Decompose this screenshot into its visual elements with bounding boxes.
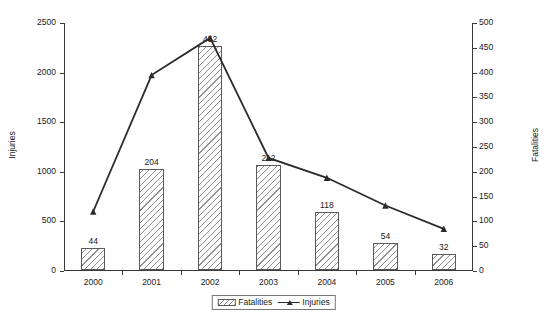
hatched-bar-icon <box>217 299 235 306</box>
y-right-tick-label: 500 <box>479 17 519 27</box>
x-axis-label: 2005 <box>355 277 415 287</box>
legend-label-fatalities: Fatalities <box>238 297 272 308</box>
chart-container: Injuries Fatalities 05001000150020002500… <box>0 0 547 323</box>
x-tick <box>356 271 357 275</box>
y-right-tick <box>473 48 477 49</box>
y-axis-right-title: Fatalities <box>530 110 540 180</box>
x-axis-label: 2001 <box>122 277 182 287</box>
y-right-tick-label: 0 <box>479 265 519 275</box>
y-left-tick-label: 500 <box>16 215 56 225</box>
line-series-injuries <box>64 23 473 271</box>
y-right-tick-label: 300 <box>479 116 519 126</box>
y-left-tick-label: 1500 <box>16 116 56 126</box>
y-right-tick-label: 50 <box>479 240 519 250</box>
y-left-tick-label: 1000 <box>16 166 56 176</box>
y-left-tick-label: 2500 <box>16 17 56 27</box>
x-axis-label: 2002 <box>180 277 240 287</box>
x-tick <box>415 271 416 275</box>
y-right-tick <box>473 172 477 173</box>
y-right-tick-label: 350 <box>479 91 519 101</box>
y-right-tick <box>473 122 477 123</box>
x-tick <box>122 271 123 275</box>
x-axis-label: 2003 <box>239 277 299 287</box>
chart-legend: Fatalities Injuries <box>211 295 335 310</box>
y-right-tick-label: 150 <box>479 191 519 201</box>
legend-label-injuries: Injuries <box>302 297 329 308</box>
y-right-tick-label: 450 <box>479 42 519 52</box>
y-left-tick-label: 2000 <box>16 67 56 77</box>
y-right-tick <box>473 221 477 222</box>
y-right-tick <box>473 197 477 198</box>
x-axis-label: 2000 <box>63 277 123 287</box>
y-right-tick-label: 200 <box>479 166 519 176</box>
line-marker-icon <box>277 299 299 307</box>
y-right-tick-label: 100 <box>479 215 519 225</box>
y-right-tick <box>473 23 477 24</box>
y-right-tick-label: 400 <box>479 67 519 77</box>
x-tick <box>239 271 240 275</box>
legend-item-injuries: Injuries <box>277 297 329 308</box>
y-left-tick <box>60 271 64 272</box>
y-right-tick <box>473 147 477 148</box>
injuries-markers <box>90 35 447 232</box>
y-left-tick-label: 0 <box>16 265 56 275</box>
y-right-tick <box>473 97 477 98</box>
y-right-tick <box>473 271 477 272</box>
x-tick <box>298 271 299 275</box>
plot-area: 05001000150020002500 0501001502002503003… <box>64 23 473 270</box>
injuries-line <box>93 38 444 229</box>
line-point-marker <box>90 208 96 214</box>
legend-item-fatalities: Fatalities <box>217 297 272 308</box>
x-axis-label: 2004 <box>297 277 357 287</box>
x-axis-label: 2006 <box>414 277 474 287</box>
x-tick <box>181 271 182 275</box>
y-right-tick-label: 250 <box>479 141 519 151</box>
y-right-tick <box>473 73 477 74</box>
line-point-marker <box>207 35 213 41</box>
